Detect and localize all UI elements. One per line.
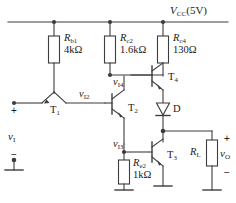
rb1-value: 4kΩ <box>64 45 82 56</box>
rl-subscript: L <box>196 151 200 158</box>
rb1-body <box>49 36 60 63</box>
vi4-symbol: v <box>113 76 118 87</box>
re2-value: 1kΩ <box>133 170 151 181</box>
node-vi4-label: vI4 <box>113 77 123 88</box>
diode-triangle <box>157 103 170 115</box>
rb1-subscript: b1 <box>70 37 77 44</box>
supply-subscript: CC <box>177 10 187 18</box>
t2-subscript: 2 <box>134 107 137 114</box>
input-label: vI <box>8 131 15 142</box>
t2-label: T2 <box>128 103 138 114</box>
supply-symbol: V <box>170 4 177 16</box>
t1-right-slope <box>54 92 66 103</box>
input-minus-sign: − <box>11 150 17 160</box>
t3-label: T3 <box>167 150 177 161</box>
rc2-label: Rc2 <box>120 33 133 44</box>
rl-label: RL <box>190 147 201 158</box>
rc4-label: Rc4 <box>173 33 186 44</box>
t2-collector-slope <box>112 90 124 99</box>
input-plus-sign: + <box>11 106 17 116</box>
vo-subscript: O <box>225 153 230 161</box>
rb1-label: Rb1 <box>64 33 77 44</box>
rc2-body <box>105 36 116 63</box>
re2-subscript: e2 <box>139 162 145 169</box>
vi-subscript: I <box>13 136 15 144</box>
rc4-value: 130Ω <box>173 45 197 56</box>
t4-collector-slope <box>152 63 163 71</box>
vi2-subscript: I2 <box>84 93 90 100</box>
node-vi3-label: vI3 <box>113 139 123 150</box>
output-minus-sign: − <box>224 168 230 178</box>
vi3-subscript: I3 <box>118 143 124 150</box>
vi4-subscript: I4 <box>118 81 124 88</box>
t3-subscript: 3 <box>173 154 176 161</box>
output-plus-sign: + <box>224 134 230 144</box>
t3-collector-slope <box>152 139 163 147</box>
rl-body <box>207 140 218 166</box>
output-label: vO <box>220 148 230 159</box>
circuit-schematic-figure: VCC(5V) Rb1 4kΩ Rc2 1.6kΩ Rc4 130Ω Re2 1… <box>0 0 236 203</box>
vi3-symbol: v <box>113 138 118 149</box>
supply-label: VCC(5V) <box>170 5 207 16</box>
t4-emitter-arrow <box>157 84 162 89</box>
t4-subscript: 4 <box>174 76 177 83</box>
schematic-drawing <box>0 0 236 203</box>
rc2-subscript: c2 <box>126 37 132 44</box>
rc2-value: 1.6kΩ <box>120 45 146 56</box>
supply-value: (5V) <box>186 4 207 16</box>
t3-emitter-arrow <box>157 160 162 165</box>
t4-label: T4 <box>168 72 178 83</box>
t1-subscript: 1 <box>56 109 59 116</box>
node-vi2-label: vI2 <box>79 89 89 100</box>
vi2-symbol: v <box>79 88 84 99</box>
t1-label: T1 <box>50 105 60 116</box>
rc4-subscript: c4 <box>179 37 185 44</box>
diode-label: D <box>173 104 181 115</box>
re2-label: Re2 <box>133 158 146 169</box>
re2-body <box>119 160 130 184</box>
vi4-junction-dot <box>108 73 112 77</box>
rc4-body <box>158 36 169 63</box>
